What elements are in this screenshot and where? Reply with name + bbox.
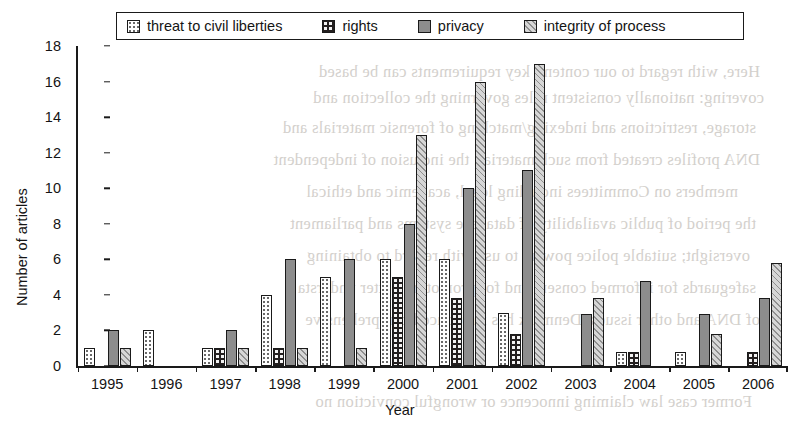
bar-privacy-2004	[640, 281, 651, 366]
bar-rights-2002	[510, 334, 521, 366]
bar-group-1998	[255, 46, 314, 366]
x-tick-mark	[492, 366, 493, 372]
bar-group-1996	[137, 46, 196, 366]
bar-threat-to-civil-liberties-1996	[143, 330, 154, 366]
bar-privacy-1998	[285, 259, 296, 366]
x-tick-mark	[196, 366, 197, 372]
legend-item-threat-to-civil-liberties: threat to civil liberties	[127, 18, 282, 34]
legend-item-rights: rights	[322, 18, 377, 34]
legend-swatch-integrity-of-process-icon	[524, 20, 537, 33]
bar-threat-to-civil-liberties-2000	[380, 259, 391, 366]
x-tick-label: 2001	[433, 376, 492, 392]
bar-group-2000	[373, 46, 432, 366]
bar-rights-2006	[747, 352, 758, 366]
bar-group-2004	[610, 46, 669, 366]
bar-integrity-of-process-1998	[297, 348, 308, 366]
bar-threat-to-civil-liberties-1995	[84, 348, 95, 366]
y-tick-label: 4	[53, 287, 61, 303]
x-tick-mark	[728, 366, 729, 372]
y-tick-label: 8	[53, 216, 61, 232]
bar-threat-to-civil-liberties-1999	[320, 277, 331, 366]
x-tick-mark	[669, 366, 670, 372]
legend-swatch-threat-to-civil-liberties-icon	[127, 20, 140, 33]
bar-threat-to-civil-liberties-2004	[616, 352, 627, 366]
x-tick-label: 1998	[255, 376, 314, 392]
x-tick-mark	[314, 366, 315, 372]
bar-integrity-of-process-2001	[475, 82, 486, 366]
bar-rights-1998	[273, 348, 284, 366]
y-tick-label: 18	[45, 38, 61, 54]
bar-privacy-1999	[344, 259, 355, 366]
bar-integrity-of-process-2003	[593, 298, 604, 366]
legend-swatch-privacy-icon	[418, 20, 431, 33]
y-tick-label: 16	[45, 74, 61, 90]
y-tick-label: 12	[45, 145, 61, 161]
bar-integrity-of-process-2002	[534, 64, 545, 366]
bar-rights-1997	[214, 348, 225, 366]
bar-privacy-2001	[463, 188, 474, 366]
bar-privacy-1997	[226, 330, 237, 366]
x-tick-label: 1999	[314, 376, 373, 392]
y-axis-title: Number of articles	[6, 146, 22, 166]
bar-group-2002	[492, 46, 551, 366]
bar-threat-to-civil-liberties-2001	[439, 259, 450, 366]
x-tick-label: 2004	[610, 376, 669, 392]
bar-group-1997	[196, 46, 255, 366]
y-axis-tick-labels: 024681012141618	[34, 46, 70, 366]
bar-group-1999	[314, 46, 373, 366]
x-axis-title: Year	[0, 402, 800, 418]
x-tick-label: 2006	[728, 376, 787, 392]
legend-item-privacy: privacy	[418, 18, 484, 34]
x-tick-label: 1996	[137, 376, 196, 392]
bar-privacy-2002	[522, 170, 533, 366]
bar-threat-to-civil-liberties-1998	[261, 295, 272, 366]
bar-privacy-1995	[108, 330, 119, 366]
bar-integrity-of-process-1995	[120, 348, 131, 366]
bar-privacy-2003	[581, 314, 592, 366]
x-tick-mark	[373, 366, 374, 372]
y-tick-label: 0	[53, 358, 61, 374]
bar-integrity-of-process-2005	[711, 334, 722, 366]
x-tick-mark	[137, 366, 138, 372]
y-tick-label: 6	[53, 251, 61, 267]
x-tick-label: 2000	[373, 376, 432, 392]
bar-privacy-2005	[699, 314, 710, 366]
bar-group-2005	[669, 46, 728, 366]
x-tick-label: 2003	[551, 376, 610, 392]
x-axis-tick-labels: 1995199619971998199920002001200220032004…	[78, 376, 788, 392]
bar-integrity-of-process-2000	[416, 135, 427, 366]
bar-group-2003	[551, 46, 610, 366]
bar-group-2006	[728, 46, 787, 366]
x-tick-mark	[433, 366, 434, 372]
y-tick-label: 14	[45, 109, 61, 125]
bar-threat-to-civil-liberties-2005	[675, 352, 686, 366]
bar-integrity-of-process-1997	[238, 348, 249, 366]
bar-threat-to-civil-liberties-2002	[498, 313, 509, 366]
x-tick-mark	[610, 366, 611, 372]
bar-integrity-of-process-1999	[356, 348, 367, 366]
bar-group-2001	[433, 46, 492, 366]
bar-groups	[78, 46, 788, 366]
legend-label-integrity-of-process: integrity of process	[544, 18, 666, 34]
bar-rights-2001	[451, 298, 462, 366]
bar-rights-2004	[628, 352, 639, 366]
x-tick-mark	[551, 366, 552, 372]
bar-threat-to-civil-liberties-1997	[202, 348, 213, 366]
legend-item-integrity-of-process: integrity of process	[524, 18, 666, 34]
x-tick-label: 2005	[669, 376, 728, 392]
x-tick-mark	[78, 366, 79, 372]
bar-rights-2000	[392, 277, 403, 366]
legend-swatch-rights-icon	[322, 20, 335, 33]
x-tick-label: 1995	[78, 376, 137, 392]
chart-legend: threat to civil liberties rights privacy…	[116, 12, 744, 40]
bar-privacy-2006	[759, 298, 770, 366]
y-tick-label: 2	[53, 322, 61, 338]
x-tick-mark	[786, 366, 787, 372]
y-tick-label: 10	[45, 180, 61, 196]
chart-plot-area: Number of articles 024681012141618 19951…	[0, 46, 800, 406]
x-tick-label: 1997	[196, 376, 255, 392]
legend-label-threat-to-civil-liberties: threat to civil liberties	[147, 18, 282, 34]
legend-label-privacy: privacy	[438, 18, 484, 34]
x-tick-label: 2002	[492, 376, 551, 392]
legend-label-rights: rights	[342, 18, 377, 34]
